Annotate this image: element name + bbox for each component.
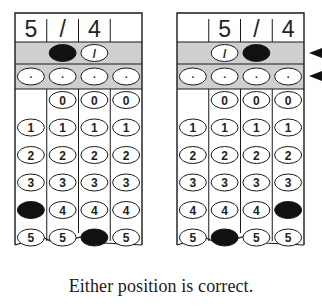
svg-text:.: .	[29, 69, 32, 80]
svg-text:4: 4	[123, 204, 130, 218]
svg-text:2: 2	[190, 149, 197, 163]
svg-text:0: 0	[59, 94, 66, 108]
answer-grid-left: 5/4/....000111122223333444555	[15, 13, 142, 245]
svg-text:2: 2	[59, 149, 66, 163]
svg-text:2: 2	[253, 149, 260, 163]
svg-text:4: 4	[253, 204, 260, 218]
svg-text:.: .	[61, 69, 64, 80]
svg-text:4: 4	[190, 204, 197, 218]
grid-drawing-left: 5/4/....000111122223333444555	[15, 13, 142, 253]
svg-text:.: .	[223, 69, 226, 80]
svg-text:3: 3	[253, 176, 260, 190]
bubble-slash[interactable]	[49, 45, 76, 62]
svg-text:1: 1	[190, 121, 197, 135]
svg-text:2: 2	[91, 149, 98, 163]
svg-text:0: 0	[91, 94, 98, 108]
svg-text:0: 0	[285, 94, 292, 108]
header-digit: 5	[218, 16, 231, 42]
svg-text:1: 1	[285, 121, 292, 135]
arrow-left-icon-fraction-row	[309, 48, 322, 58]
bubble-digit-4[interactable]	[17, 202, 44, 219]
svg-text:0: 0	[253, 94, 260, 108]
svg-text:5: 5	[285, 231, 292, 245]
svg-text:.: .	[93, 69, 96, 80]
svg-text:5: 5	[123, 231, 130, 245]
svg-text:5: 5	[59, 231, 66, 245]
svg-text:3: 3	[28, 176, 35, 190]
header-digit: 4	[282, 16, 295, 42]
svg-text:1: 1	[221, 121, 228, 135]
header-digit: 5	[24, 16, 37, 42]
svg-text:1: 1	[28, 121, 35, 135]
svg-text:2: 2	[285, 149, 292, 163]
svg-text:5: 5	[28, 231, 35, 245]
svg-text:1: 1	[59, 121, 66, 135]
caption: Either position is correct.	[0, 276, 322, 297]
svg-text:3: 3	[285, 176, 292, 190]
svg-text:1: 1	[91, 121, 98, 135]
svg-text:4: 4	[59, 204, 66, 218]
bubble-digit-5[interactable]	[81, 229, 108, 246]
bubble-slash[interactable]	[243, 45, 270, 62]
svg-text:5: 5	[253, 231, 260, 245]
svg-text:2: 2	[28, 149, 35, 163]
svg-text:3: 3	[190, 176, 197, 190]
svg-text:5: 5	[190, 231, 197, 245]
svg-text:3: 3	[123, 176, 130, 190]
svg-text:4: 4	[91, 204, 98, 218]
bubble-digit-5[interactable]	[211, 229, 238, 246]
svg-text:3: 3	[91, 176, 98, 190]
svg-text:1: 1	[123, 121, 130, 135]
svg-text:.: .	[125, 69, 128, 80]
arrow-left-icon-decimal-row	[309, 71, 322, 81]
svg-text:.: .	[287, 69, 290, 80]
svg-text:3: 3	[221, 176, 228, 190]
svg-text:2: 2	[123, 149, 130, 163]
answer-grid-right: 5/4/....000111122223333444555	[177, 13, 304, 245]
header-digit: /	[253, 16, 260, 42]
grid-drawing-right: 5/4/....000111122223333444555	[177, 13, 304, 253]
svg-text:4: 4	[221, 204, 228, 218]
bubble-digit-4[interactable]	[275, 202, 302, 219]
svg-text:2: 2	[221, 149, 228, 163]
header-digit: /	[59, 16, 66, 42]
svg-text:0: 0	[221, 94, 228, 108]
svg-text:3: 3	[59, 176, 66, 190]
svg-text:0: 0	[123, 94, 130, 108]
svg-text:.: .	[191, 69, 194, 80]
svg-text:1: 1	[253, 121, 260, 135]
header-digit: 4	[88, 16, 101, 42]
svg-text:.: .	[255, 69, 258, 80]
